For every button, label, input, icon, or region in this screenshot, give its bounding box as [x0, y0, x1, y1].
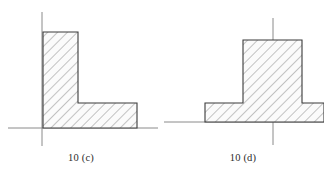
figure-caption-d: 10 (d) [162, 152, 324, 163]
figure-panel-d: 10 (d) [162, 0, 324, 176]
figure-caption-c: 10 (c) [0, 152, 162, 163]
figure-c-drawing [0, 0, 162, 150]
t-section-profile-d [205, 40, 324, 122]
l-section-profile-c [43, 32, 137, 128]
figure-sheet: 10 (c) 10 (d) [0, 0, 324, 176]
figure-panel-c: 10 (c) [0, 0, 162, 176]
figure-d-drawing [162, 0, 324, 150]
